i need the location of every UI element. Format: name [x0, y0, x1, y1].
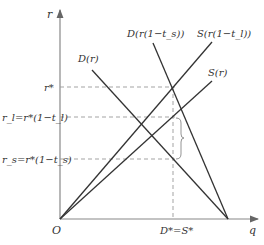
wedge-brace [176, 118, 184, 159]
x-axis-label: q [249, 224, 256, 237]
r-star-label: r* [44, 82, 54, 93]
d-r-label: D(r) [77, 53, 99, 64]
origin-label: O [52, 224, 61, 237]
s-r-tl-label: S(r(1−t_l)) [197, 28, 251, 40]
supply-curve-s-r-tl [60, 42, 212, 219]
supply-demand-diagram: r q O r* r_l=r*(1−t_l) r_s=r*(1−t_s) D*=… [0, 0, 264, 245]
supply-curve-s-r [60, 81, 212, 219]
d-r-ts-label: D(r(1−t_s)) [126, 28, 184, 40]
r-l-label: r_l=r*(1−t_l) [2, 112, 68, 124]
demand-curve-d-r [92, 70, 228, 219]
r-s-label: r_s=r*(1−t_s) [2, 154, 72, 166]
equilibrium-quantity-label: D*=S* [159, 225, 193, 236]
s-r-label: S(r) [208, 67, 228, 78]
y-axis-label: r [47, 8, 53, 21]
